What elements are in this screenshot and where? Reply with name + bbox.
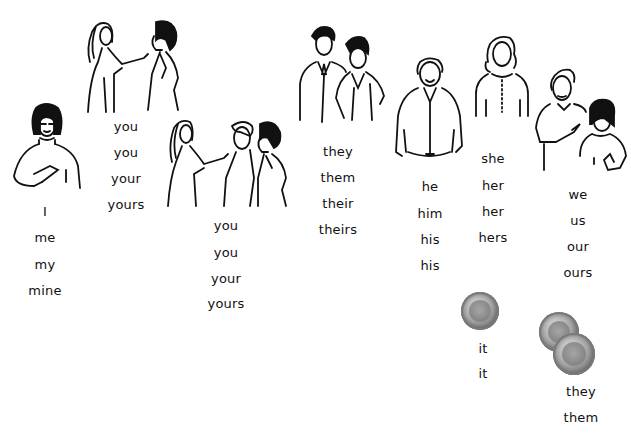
pronoun-word: they bbox=[566, 384, 596, 400]
man-standing-illustration bbox=[392, 56, 466, 164]
pronoun-word: their bbox=[322, 196, 353, 212]
pronoun-word: you bbox=[114, 119, 139, 135]
pronoun-word: my bbox=[35, 257, 56, 273]
woman-pointing-self-illustration bbox=[6, 100, 86, 196]
pronoun-word: ours bbox=[563, 265, 592, 281]
girl-pointing-at-one-person-illustration bbox=[80, 18, 190, 114]
pronoun-word: hers bbox=[478, 230, 507, 246]
pronoun-word: them bbox=[321, 170, 356, 186]
pronoun-word: she bbox=[481, 151, 505, 167]
pronoun-word: our bbox=[567, 239, 589, 255]
pronoun-word: yours bbox=[107, 197, 144, 213]
pronoun-word: your bbox=[211, 271, 241, 287]
man-and-girl-pointing-selves-illustration bbox=[534, 66, 630, 174]
pronoun-word: her bbox=[482, 178, 504, 194]
girl-pointing-at-two-people-illustration bbox=[164, 118, 300, 208]
two-people-standing-illustration bbox=[294, 24, 390, 124]
pronoun-word: yours bbox=[207, 296, 244, 312]
pronoun-word: his bbox=[420, 232, 439, 248]
pronoun-word: us bbox=[570, 213, 585, 229]
pronoun-word: I bbox=[43, 204, 47, 220]
woman-standing-illustration bbox=[472, 34, 532, 118]
pronoun-word: it bbox=[478, 366, 487, 382]
pronoun-word: him bbox=[417, 206, 442, 222]
pronoun-word: them bbox=[564, 410, 599, 426]
pronoun-word: theirs bbox=[319, 222, 357, 238]
pronoun-word: we bbox=[568, 187, 587, 203]
pronoun-word: his bbox=[420, 258, 439, 274]
pronoun-word: her bbox=[482, 204, 504, 220]
pronoun-chart-page: I me my mine you you your yours you y bbox=[0, 0, 631, 433]
pronoun-word: you bbox=[214, 245, 239, 261]
pronoun-word: you bbox=[114, 145, 139, 161]
pronoun-word: me bbox=[34, 230, 55, 246]
pronoun-word: you bbox=[214, 218, 239, 234]
pronoun-word: they bbox=[323, 144, 353, 160]
coin-front-image bbox=[553, 333, 595, 375]
single-coin-image bbox=[461, 292, 499, 330]
pronoun-word: he bbox=[422, 179, 439, 195]
pronoun-word: it bbox=[478, 341, 487, 357]
pronoun-word: mine bbox=[28, 283, 61, 299]
pronoun-word: your bbox=[111, 171, 141, 187]
